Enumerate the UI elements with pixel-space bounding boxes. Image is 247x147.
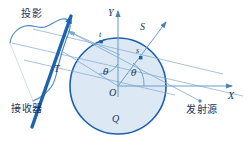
profile-baseline [10, 43, 33, 101]
origin-label: O [109, 88, 116, 98]
projection-profile-curve [10, 19, 70, 101]
diagram-svg [0, 0, 247, 147]
angle-theta-right-label: θ [131, 69, 136, 78]
projection-label: 投影 [21, 9, 42, 19]
source-point-marker [198, 99, 201, 102]
s-axis-label: S [140, 22, 145, 32]
detector-axis-label: T [54, 64, 60, 74]
angle-theta-left-label: θ [103, 68, 108, 77]
figure-canvas: 投影 接收器 发射源 T S s t X Y O Q θ θ [0, 0, 247, 147]
s-point-label: s [136, 47, 139, 55]
source-label: 发射源 [186, 105, 218, 115]
t-point-marker [100, 40, 103, 43]
s-point-marker [139, 56, 142, 59]
x-axis-label: X [228, 91, 234, 101]
y-axis-label: Y [108, 8, 114, 18]
receiver-label: 接收器 [11, 104, 43, 114]
t-point-label: t [99, 31, 101, 39]
object-label: Q [112, 114, 119, 124]
